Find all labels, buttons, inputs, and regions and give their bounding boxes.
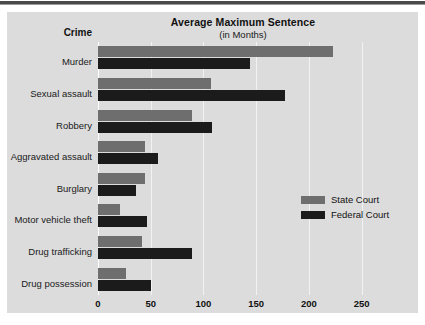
category-label: Aggravated assault: [11, 151, 92, 162]
x-tick-label: 150: [248, 298, 264, 309]
bar: [98, 216, 147, 227]
chart-panel: Average Maximum Sentence (in Months) Cri…: [7, 12, 418, 313]
bar: [98, 185, 136, 196]
chart-title: Average Maximum Sentence: [98, 16, 388, 29]
gridline: [256, 42, 257, 295]
legend-item-federal-court: Federal Court: [301, 208, 413, 221]
category-label: Drug trafficking: [28, 246, 92, 257]
bar: [98, 268, 126, 279]
bar: [98, 236, 142, 247]
x-tick-label: 50: [145, 298, 156, 309]
category-label: Drug possession: [21, 278, 92, 289]
bar: [98, 58, 250, 69]
category-label: Robbery: [56, 120, 92, 131]
x-tick-label: 100: [196, 298, 212, 309]
bar: [98, 78, 211, 89]
bar: [98, 280, 151, 291]
legend-label-federal-court: Federal Court: [331, 209, 389, 220]
bar: [98, 248, 192, 259]
category-label: Murder: [62, 56, 92, 67]
category-label: Motor vehicle theft: [14, 214, 92, 225]
gridline: [309, 42, 310, 295]
category-label-list: MurderSexual assaultRobberyAggravated as…: [7, 42, 92, 295]
chart-subtitle: (in Months): [98, 29, 388, 41]
category-label: Burglary: [57, 183, 92, 194]
category-label: Sexual assault: [30, 88, 92, 99]
bar: [98, 46, 333, 57]
bar: [98, 204, 120, 215]
x-axis-tick-labels: 050100150200250: [98, 298, 388, 314]
bar: [98, 110, 192, 121]
bar: [98, 90, 285, 101]
bar: [98, 141, 145, 152]
gridline: [362, 42, 363, 295]
bar: [98, 153, 158, 164]
legend-item-state-court: State Court: [301, 193, 413, 206]
legend-swatch-state-court: [301, 196, 325, 204]
x-tick-label: 200: [301, 298, 317, 309]
chart-figure: Average Maximum Sentence (in Months) Cri…: [0, 0, 425, 325]
plot-area: [98, 42, 388, 295]
bar: [98, 173, 145, 184]
x-tick-label: 250: [354, 298, 370, 309]
top-divider-hairline: [0, 4, 425, 5]
chart-legend: State Court Federal Court: [301, 193, 413, 223]
x-tick-label: 0: [95, 298, 100, 309]
legend-swatch-federal-court: [301, 211, 325, 219]
bar: [98, 122, 212, 133]
category-axis-title: Crime: [7, 27, 92, 38]
chart-title-block: Average Maximum Sentence (in Months): [98, 16, 388, 41]
legend-label-state-court: State Court: [331, 194, 379, 205]
